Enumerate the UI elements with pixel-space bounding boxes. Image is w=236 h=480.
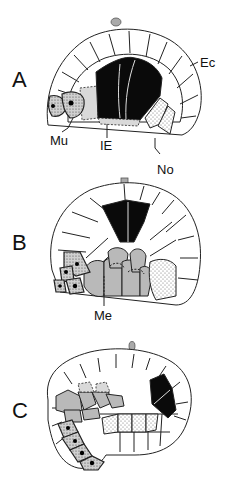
- panel-b: B: [12, 178, 201, 323]
- label-mu: Mu: [50, 133, 68, 148]
- notochord-cells-c: [102, 414, 158, 434]
- label-no: No: [157, 162, 174, 177]
- panel-c: C: [12, 342, 191, 471]
- panel-a: A Ec: [12, 18, 216, 177]
- panel-label-b: B: [12, 230, 27, 255]
- label-ec: Ec: [200, 55, 216, 70]
- label-ie: IE: [100, 138, 113, 153]
- leader-no: [155, 138, 160, 154]
- label-me: Me: [94, 308, 112, 323]
- notochord-cell-b: [149, 259, 176, 300]
- embryo-diagram: A Ec: [0, 0, 236, 480]
- panel-label-a: A: [12, 67, 27, 92]
- polar-body-a: [111, 18, 121, 26]
- panel-label-c: C: [12, 398, 28, 423]
